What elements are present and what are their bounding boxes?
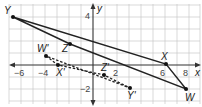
y-axis-down-arrow-icon (91, 100, 96, 106)
x-tick-neg6: −6 (14, 68, 24, 78)
x-tick-8: 8 (183, 68, 188, 78)
x-tick-6: 6 (160, 68, 165, 78)
vertex-X (164, 62, 168, 66)
grid (9, 4, 200, 104)
coordinate-plane-diagram: −6 −4 2 6 8 4 −2 x y Y X W Z W' X' Z' Y' (0, 0, 202, 107)
y-axis-up-arrow-icon (91, 3, 96, 9)
y-tick-neg2: −2 (80, 84, 90, 94)
x-axis-label: x (194, 67, 201, 78)
label-X-prime: X' (55, 67, 66, 78)
x-tick-neg4: −4 (38, 68, 48, 78)
label-Z: Z (61, 43, 69, 54)
label-X: X (160, 51, 168, 62)
x-tick-2: 2 (113, 68, 118, 78)
vertex-Z (68, 42, 72, 46)
graph-canvas: −6 −4 2 6 8 4 −2 x y Y X W Z W' X' Z' Y' (0, 0, 202, 107)
x-axis-left-arrow-icon (9, 63, 15, 68)
vertex-W-prime (44, 54, 48, 58)
vertex-Z-prime (102, 73, 106, 77)
y-tick-4: 4 (85, 11, 90, 21)
label-W-prime: W' (37, 43, 49, 54)
label-Z-prime: Z' (100, 62, 110, 73)
label-W: W (185, 92, 196, 103)
vertex-W (184, 87, 188, 91)
label-Y: Y (4, 5, 12, 16)
label-Y-prime: Y' (127, 90, 137, 101)
y-axis-label: y (96, 3, 103, 14)
vertex-Y (11, 15, 15, 19)
